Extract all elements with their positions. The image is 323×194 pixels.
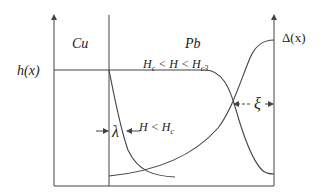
field-low-label: H < Hc <box>138 120 174 136</box>
proximity-effect-diagram: Cu Pb h(x) Δ(x) Hc < H < Hc3 H < Hc λ ξ <box>0 0 323 194</box>
xi-label: ξ <box>254 95 261 112</box>
h-of-x-label: h(x) <box>17 63 40 79</box>
pb-label: Pb <box>184 36 201 51</box>
field-intermediate-label: Hc < H < Hc3 <box>142 57 208 73</box>
delta-of-x-label: Δ(x) <box>282 30 306 45</box>
cu-label: Cu <box>72 36 88 51</box>
lambda-label: λ <box>111 123 119 140</box>
